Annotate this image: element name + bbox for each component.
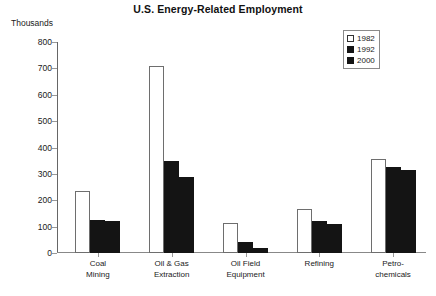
bar	[386, 167, 401, 253]
bar-group	[223, 42, 268, 253]
y-axis-tick-label: 500	[38, 116, 52, 126]
chart-title: U.S. Energy-Related Employment	[0, 3, 436, 15]
bar-group	[75, 42, 120, 253]
bar-group	[297, 42, 342, 253]
bar	[179, 177, 194, 253]
y-axis-tick-mark	[52, 227, 57, 228]
legend-swatch	[347, 57, 354, 64]
legend-swatch	[347, 46, 354, 53]
x-axis-tick-mark	[172, 253, 173, 257]
y-axis-tick-mark	[52, 253, 57, 254]
y-axis-tick-label: 300	[38, 169, 52, 179]
bar-group	[149, 42, 194, 253]
x-axis-category-label: Refining	[280, 259, 358, 270]
bar-group	[371, 42, 416, 253]
x-axis-tick-mark	[98, 253, 99, 257]
legend-item: 2000	[347, 55, 375, 66]
bar-chart: U.S. Energy-Related Employment Thousands…	[0, 0, 436, 296]
bar	[371, 159, 386, 253]
legend-label: 2000	[357, 56, 375, 65]
y-axis-tick-mark	[52, 95, 57, 96]
legend-label: 1982	[357, 34, 375, 43]
bar	[105, 221, 120, 253]
y-axis-tick-label: 400	[38, 143, 52, 153]
bar	[75, 191, 90, 253]
legend-item: 1982	[347, 33, 375, 44]
x-axis-category-label: Petro-chemicals	[354, 259, 432, 280]
y-axis-tick-mark	[52, 68, 57, 69]
legend-item: 1992	[347, 44, 375, 55]
x-axis-tick-mark	[393, 253, 394, 257]
bar	[312, 221, 327, 253]
bar	[253, 248, 268, 253]
y-axis-units-label: Thousands	[11, 18, 53, 28]
x-axis-category-label: Oil FieldEquipment	[207, 259, 285, 280]
x-axis-category-label: Oil & GasExtraction	[133, 259, 211, 280]
y-axis-tick-mark	[52, 121, 57, 122]
y-axis-tick-label: 800	[38, 37, 52, 47]
bar	[327, 224, 342, 253]
y-axis-tick-label: 100	[38, 222, 52, 232]
bar	[90, 220, 105, 253]
y-axis-tick-label: 700	[38, 63, 52, 73]
x-axis-category-label: CoalMining	[59, 259, 137, 280]
bar	[238, 242, 253, 253]
legend: 198219922000	[343, 30, 380, 69]
bar	[297, 209, 312, 253]
x-axis-tick-mark	[246, 253, 247, 257]
plot-area: 0100200300400500600700800	[57, 42, 426, 253]
y-axis-tick-label: 0	[47, 248, 52, 258]
bar	[164, 161, 179, 253]
y-axis-tick-label: 200	[38, 195, 52, 205]
y-axis-tick-mark	[52, 148, 57, 149]
y-axis-line	[57, 42, 58, 253]
x-axis-tick-mark	[319, 253, 320, 257]
y-axis-tick-mark	[52, 200, 57, 201]
legend-swatch	[347, 35, 354, 42]
y-axis-tick-label: 600	[38, 90, 52, 100]
bar	[223, 223, 238, 253]
bar	[401, 170, 416, 253]
y-axis-tick-mark	[52, 42, 57, 43]
y-axis-tick-mark	[52, 174, 57, 175]
bar	[149, 66, 164, 253]
legend-label: 1992	[357, 45, 375, 54]
